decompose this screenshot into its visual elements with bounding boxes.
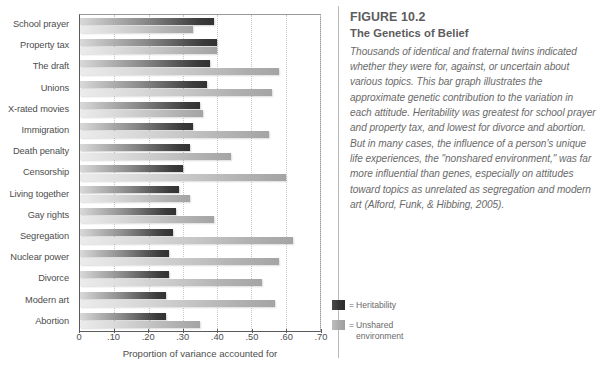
bar-unshared-environment <box>80 110 203 117</box>
bar-heritability <box>80 102 200 109</box>
category-axis-labels: School prayerProperty taxThe draftUnions… <box>0 14 74 332</box>
legend-label: Heritability <box>356 300 396 311</box>
x-tick-label: .70 <box>315 333 328 342</box>
category-label: The draft <box>0 56 74 77</box>
x-tick-label: 0 <box>76 333 81 342</box>
legend-swatch-dark <box>332 300 345 310</box>
category-label: Nuclear power <box>0 247 74 268</box>
bar-unshared-environment <box>80 237 293 244</box>
bar-heritability <box>80 229 173 236</box>
x-axis-title: Proportion of variance accounted for <box>79 349 321 359</box>
category-label: Unions <box>0 78 74 99</box>
bar-unshared-environment <box>80 321 200 328</box>
bar-row <box>80 310 320 331</box>
plot-wrapper: School prayerProperty taxThe draftUnions… <box>0 0 338 369</box>
bar-heritability <box>80 18 214 25</box>
x-tick-label: .40 <box>211 333 224 342</box>
category-label: Gay rights <box>0 205 74 226</box>
bar-heritability <box>80 39 217 46</box>
bar-heritability <box>80 144 190 151</box>
category-label: Death penalty <box>0 141 74 162</box>
category-label: Censorship <box>0 162 74 183</box>
bar-heritability <box>80 186 179 193</box>
bar-heritability <box>80 292 166 299</box>
bar-row <box>80 162 320 183</box>
bar-heritability <box>80 60 210 67</box>
bar-unshared-environment <box>80 153 231 160</box>
bar-row <box>80 99 320 120</box>
figure-page: School prayerProperty taxThe draftUnions… <box>0 0 604 369</box>
bar-row <box>80 120 320 141</box>
legend-swatch-light <box>332 320 345 330</box>
x-tick-label: .10 <box>107 333 120 342</box>
bar-heritability <box>80 271 169 278</box>
category-label: School prayer <box>0 14 74 35</box>
bar-row <box>80 57 320 78</box>
bar-row <box>80 15 320 36</box>
bar-row <box>80 36 320 57</box>
bar-row <box>80 141 320 162</box>
bar-unshared-environment <box>80 195 190 202</box>
plot-area <box>79 14 321 332</box>
x-tick-label: .60 <box>280 333 293 342</box>
chart-legend: =Heritability=Unshared environment <box>332 300 472 352</box>
legend-equals-sign: = <box>349 300 354 311</box>
x-tick-label: .20 <box>142 333 155 342</box>
legend-item: =Heritability <box>332 300 472 311</box>
bar-unshared-environment <box>80 68 279 75</box>
bar-unshared-environment <box>80 131 269 138</box>
bar-unshared-environment <box>80 279 262 286</box>
bar-unshared-environment <box>80 216 214 223</box>
category-label: Property tax <box>0 35 74 56</box>
bar-row <box>80 226 320 247</box>
bar-unshared-environment <box>80 26 193 33</box>
category-label: Segregation <box>0 226 74 247</box>
gridline <box>320 15 321 331</box>
bar-unshared-environment <box>80 300 275 307</box>
bar-unshared-environment <box>80 258 279 265</box>
bar-heritability <box>80 250 169 257</box>
category-label: Divorce <box>0 268 74 289</box>
bar-heritability <box>80 81 207 88</box>
legend-label: Unshared environment <box>356 320 403 342</box>
category-label: X-rated movies <box>0 99 74 120</box>
bar-unshared-environment <box>80 47 217 54</box>
bar-unshared-environment <box>80 89 272 96</box>
bar-rows <box>80 15 320 331</box>
bar-heritability <box>80 208 176 215</box>
x-tick-label: .50 <box>245 333 258 342</box>
category-label: Modern art <box>0 290 74 311</box>
bar-row <box>80 78 320 99</box>
bar-row <box>80 268 320 289</box>
x-axis-ticks: 0.10.20.30.40.50.60.70 <box>79 333 321 347</box>
figure-number: FIGURE 10.2 <box>350 10 596 25</box>
bar-row <box>80 247 320 268</box>
bar-heritability <box>80 165 183 172</box>
legend-equals-sign: = <box>349 320 354 331</box>
bar-row <box>80 184 320 205</box>
figure-caption-text: Thousands of identical and fraternal twi… <box>350 44 596 213</box>
bar-chart: School prayerProperty taxThe draftUnions… <box>0 0 338 369</box>
figure-title: The Genetics of Belief <box>350 26 596 40</box>
bar-heritability <box>80 313 166 320</box>
category-label: Abortion <box>0 311 74 332</box>
legend-item: =Unshared environment <box>332 320 472 342</box>
category-label: Living together <box>0 184 74 205</box>
bar-unshared-environment <box>80 174 286 181</box>
bar-row <box>80 205 320 226</box>
bar-row <box>80 289 320 310</box>
x-tick-label: .30 <box>176 333 189 342</box>
bar-heritability <box>80 123 193 130</box>
category-label: Immigration <box>0 120 74 141</box>
